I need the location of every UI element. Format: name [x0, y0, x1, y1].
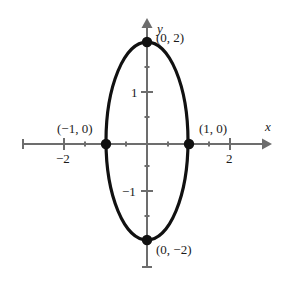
point-marker-left [101, 139, 111, 149]
x-tick-label-pos2: 2 [226, 152, 233, 165]
graph-figure: y x −2 2 1 −1 (0, 2) (1, 0) (0, −2) (−1,… [0, 0, 284, 285]
point-label-top: (0, 2) [156, 31, 184, 44]
y-tick-label-pos1: 1 [131, 86, 138, 99]
point-marker-top [142, 37, 152, 47]
x-axis-arrowhead [262, 139, 272, 150]
y-axis-arrowhead [142, 18, 153, 28]
point-label-bottom: (0, −2) [156, 243, 192, 256]
y-tick-label-neg1: −1 [122, 185, 136, 198]
point-label-left: (−1, 0) [57, 122, 93, 135]
point-marker-right [184, 139, 194, 149]
x-tick-label-neg2: −2 [56, 152, 70, 165]
point-label-right: (1, 0) [199, 122, 227, 135]
x-axis-label: x [265, 120, 271, 133]
coordinate-plane [0, 0, 284, 285]
point-marker-bottom [142, 235, 152, 245]
